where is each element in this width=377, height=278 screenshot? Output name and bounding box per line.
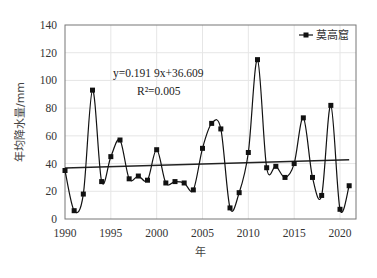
x-axis-label: 年 <box>195 245 206 259</box>
trend-equation: y=0.191 9x+36.609 <box>113 67 204 80</box>
data-point-marker <box>338 207 343 212</box>
data-point-marker <box>72 208 77 213</box>
precipitation-line-chart: 020406080100120140 199019952000200520102… <box>0 0 377 278</box>
data-point-marker <box>328 103 333 108</box>
y-tick-label: 100 <box>40 74 58 86</box>
data-point-marker <box>347 183 352 188</box>
data-point-marker <box>264 165 269 170</box>
x-tick-label: 2015 <box>283 227 306 239</box>
data-point-marker <box>182 180 187 185</box>
x-tick-label: 2010 <box>237 227 260 239</box>
y-axis-ticks: 020406080100120140 <box>40 19 58 225</box>
data-point-marker <box>118 138 123 143</box>
data-point-marker <box>154 147 159 152</box>
data-point-marker <box>209 121 214 126</box>
legend-label: 莫高窟 <box>316 28 349 42</box>
y-tick-label: 0 <box>51 213 57 225</box>
y-tick-label: 140 <box>40 19 58 31</box>
data-point-marker <box>310 175 315 180</box>
data-point-marker <box>81 192 86 197</box>
data-point-marker <box>136 174 141 179</box>
data-point-marker <box>173 179 178 184</box>
data-point-marker <box>228 205 233 210</box>
data-point-marker <box>301 115 306 120</box>
x-axis-ticks: 1990199520002005201020152020 <box>54 227 352 239</box>
x-tick-label: 2005 <box>191 227 214 239</box>
x-tick-label: 1990 <box>54 227 77 239</box>
data-point-marker <box>145 178 150 183</box>
y-axis-label: 年均降水量/mm <box>13 82 27 162</box>
x-tick-label: 2020 <box>329 227 352 239</box>
data-point-marker <box>273 164 278 169</box>
legend-marker-icon <box>304 33 309 38</box>
data-point-marker <box>283 175 288 180</box>
data-point-marker <box>255 57 260 62</box>
data-point-marker <box>99 179 104 184</box>
data-point-marker <box>237 190 242 195</box>
data-point-marker <box>200 146 205 151</box>
y-tick-label: 60 <box>46 130 58 142</box>
y-tick-label: 120 <box>40 47 58 59</box>
y-tick-label: 40 <box>46 158 58 170</box>
legend: 莫高窟 <box>299 28 349 42</box>
data-point-marker <box>319 193 324 198</box>
data-point-marker <box>246 150 251 155</box>
x-tick-label: 2000 <box>145 227 168 239</box>
y-tick-label: 20 <box>46 185 58 197</box>
data-point-marker <box>90 88 95 93</box>
trend-r-squared: R²=0.005 <box>137 85 181 97</box>
y-tick-label: 80 <box>46 102 58 114</box>
data-point-marker <box>292 161 297 166</box>
data-point-marker <box>63 168 68 173</box>
data-point-marker <box>191 187 196 192</box>
x-tick-label: 1995 <box>99 227 122 239</box>
data-point-marker <box>108 154 113 159</box>
data-point-marker <box>127 176 132 181</box>
data-point-marker <box>218 126 223 131</box>
data-point-marker <box>163 180 168 185</box>
